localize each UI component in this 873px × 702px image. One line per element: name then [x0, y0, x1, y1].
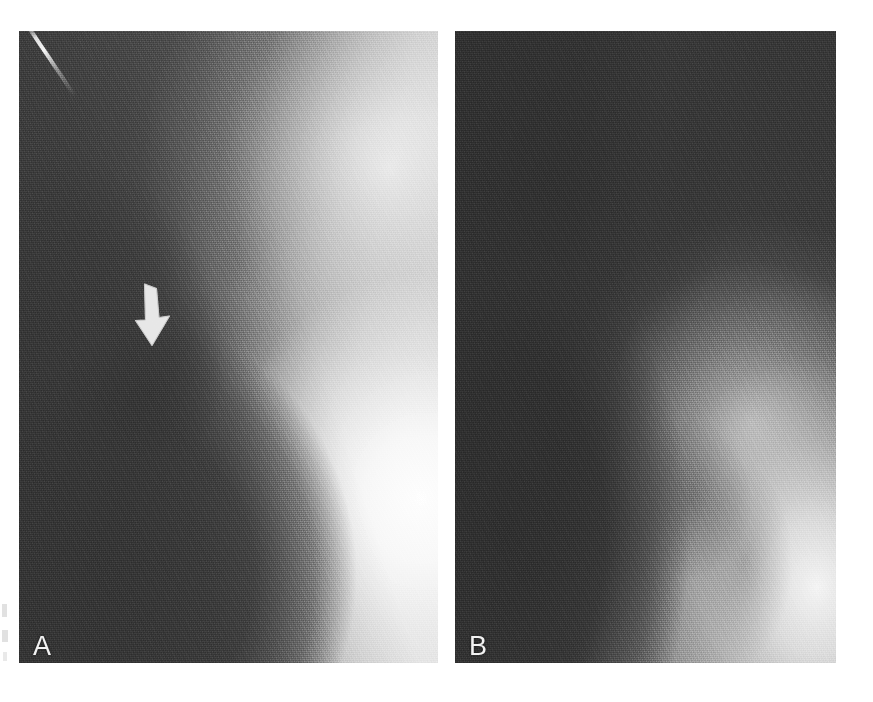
panel-label-b: B — [469, 633, 488, 660]
lower-left-wedge-layer — [455, 31, 836, 663]
radiograph-panel-b[interactable]: B — [455, 31, 836, 663]
radiograph-panel-a[interactable]: A — [19, 31, 438, 663]
panel-label-a: A — [33, 633, 52, 660]
margin-artifact-mark — [2, 630, 8, 642]
margin-artifact-mark — [3, 652, 7, 661]
radiograph-figure: A B — [0, 0, 873, 702]
margin-artifact-mark — [2, 604, 7, 617]
lower-left-wedge-layer — [19, 31, 438, 663]
